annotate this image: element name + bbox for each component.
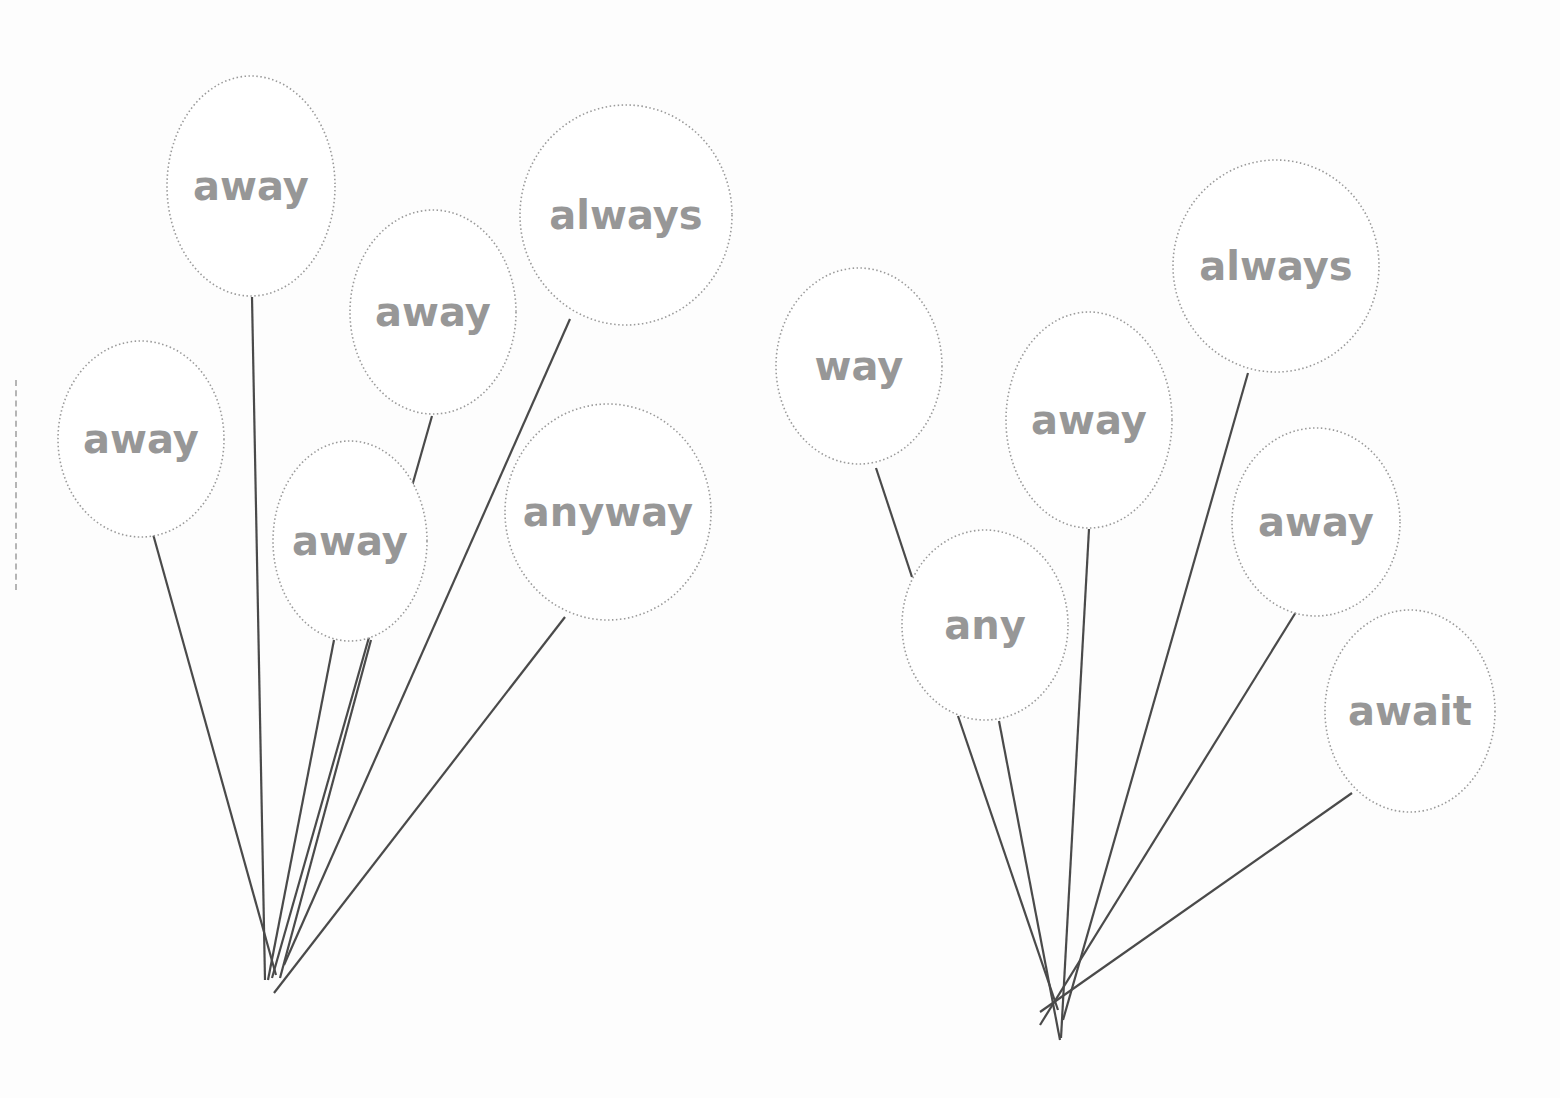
balloon-away: away (273, 441, 427, 641)
balloon-word: away (292, 518, 408, 564)
balloon-word: away (1031, 397, 1147, 443)
balloon-word: always (549, 192, 702, 238)
balloon-await: await (1325, 610, 1495, 812)
balloon-away: away (350, 210, 516, 414)
balloon-string (1040, 612, 1296, 1025)
balloon-word: away (375, 289, 491, 335)
balloon-strings (153, 297, 1352, 1040)
balloon-anyway: anyway (505, 404, 711, 620)
balloon-away: away (1006, 312, 1172, 528)
balloon-always: always (520, 105, 732, 325)
balloon-word: away (83, 416, 199, 462)
worksheet-page: awayawayawayawayalwaysanywaywayanyawayal… (0, 0, 1560, 1098)
balloon-string (876, 468, 912, 577)
balloon-away: away (1232, 428, 1400, 616)
balloon-string (958, 716, 1058, 1010)
balloon-word: await (1348, 688, 1472, 734)
balloon-string (284, 319, 570, 965)
balloon-illustration: awayawayawayawayalwaysanywaywayanyawayal… (0, 0, 1560, 1098)
balloon-word: away (193, 163, 309, 209)
balloon-word: way (815, 343, 904, 389)
balloon-shapes: awayawayawayawayalwaysanywaywayanyawayal… (58, 76, 1495, 812)
balloon-away: away (167, 76, 335, 296)
balloon-string (252, 297, 265, 980)
balloon-way: way (776, 268, 942, 464)
balloon-any: any (902, 530, 1068, 720)
balloon-word: away (1258, 499, 1374, 545)
balloon-word: always (1199, 243, 1352, 289)
balloon-string (274, 617, 565, 993)
balloon-word: any (944, 602, 1026, 648)
balloon-away: away (58, 341, 224, 537)
balloon-string (1040, 793, 1352, 1012)
balloon-always: always (1173, 160, 1379, 372)
balloon-string (999, 721, 1060, 1040)
balloon-word: anyway (523, 489, 693, 535)
